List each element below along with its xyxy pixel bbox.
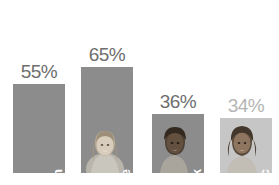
portrait-black-woman-photo — [152, 114, 204, 173]
bar-group-hispanic: 34% Hispanic — [220, 118, 272, 173]
bar-value-label: 36% — [160, 91, 197, 113]
bar-category-label: White — [119, 169, 132, 173]
bar-value-label: 34% — [228, 95, 265, 117]
portrait-hispanic-woman-photo — [220, 118, 272, 173]
bar-group-black: 36% Black — [152, 114, 204, 173]
bar-group-all-women: 55% All Women — [13, 84, 65, 173]
bar-hispanic[interactable]: Hispanic — [220, 118, 272, 173]
bar-chart: 55% All Women 65% — [0, 0, 279, 185]
bar-value-label: 65% — [89, 44, 126, 66]
bar-white[interactable]: White — [81, 67, 133, 173]
portrait-svg — [220, 118, 272, 173]
bar-black[interactable]: Black — [152, 114, 204, 173]
bar-all-women[interactable]: All Women — [13, 84, 65, 173]
portrait-white-woman-photo — [81, 113, 133, 173]
bar-group-white: 65% White — [81, 67, 133, 173]
bar-category-label: Hispanic — [258, 169, 271, 173]
portrait-svg — [81, 113, 133, 173]
bar-value-label: 55% — [21, 61, 58, 83]
portrait-svg — [152, 114, 204, 173]
bar-category-label: All Women — [51, 169, 64, 173]
bar-category-label: Black — [190, 169, 203, 173]
